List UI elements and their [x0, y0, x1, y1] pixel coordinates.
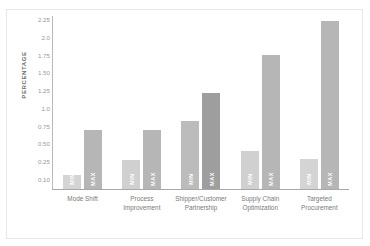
- y-axis-tick: 0.50: [16, 141, 50, 147]
- category-label-line1: Process: [112, 195, 171, 204]
- category-label-line1: Mode Shift: [53, 195, 112, 204]
- x-axis-category-labels: Mode ShiftProcessImprovementShipper/Cust…: [53, 195, 349, 212]
- bar-min[interactable]: MIN: [300, 159, 318, 189]
- cropped-title-strip: [0, 0, 370, 9]
- bar-groups: MINMAXMINMAXMINMAXMINMAXMINMAX: [53, 18, 349, 189]
- bar-max[interactable]: MAX: [202, 93, 220, 189]
- bar-max[interactable]: MAX: [84, 130, 102, 189]
- bar-min[interactable]: MIN: [181, 121, 199, 189]
- bar-series-label: MIN: [187, 173, 193, 184]
- bar-series-label: MIN: [69, 173, 75, 184]
- y-axis-tick: 2.0: [16, 35, 50, 41]
- bar-max[interactable]: MAX: [143, 130, 161, 189]
- bar-min[interactable]: MIN: [122, 160, 140, 189]
- category-label-line2: Improvement: [112, 204, 171, 213]
- y-axis-tick: 1.0: [16, 106, 50, 112]
- bar-max[interactable]: MAX: [262, 55, 280, 189]
- y-axis-tick: 1.25: [16, 88, 50, 94]
- bar-group: MINMAX: [173, 18, 229, 189]
- y-axis-tick: 0.10: [16, 177, 50, 183]
- category-label-line1: Shipper/Customer: [171, 195, 230, 204]
- category-label-line1: Targeted: [290, 195, 349, 204]
- bar-group: MINMAX: [114, 18, 170, 189]
- category-label-line2: Procurement: [290, 204, 349, 213]
- bar-series-label: MIN: [306, 173, 312, 184]
- x-axis-category-label: ProcessImprovement: [112, 195, 171, 212]
- bar-min[interactable]: MIN: [241, 151, 259, 189]
- category-label-line2: Partnership: [171, 204, 230, 213]
- bar-series-label: MAX: [327, 172, 333, 185]
- x-axis-line: [52, 189, 349, 190]
- chart-figure: PERCENTAGE 2.252.01.751.501.251.00.750.5…: [0, 0, 370, 246]
- bar-group: MINMAX: [232, 18, 288, 189]
- bar-series-label: MAX: [208, 172, 214, 185]
- y-axis-tick: 0.75: [16, 124, 50, 130]
- x-axis-category-label: Supply ChainOptimization: [231, 195, 290, 212]
- bar-series-label: MIN: [247, 173, 253, 184]
- x-axis-category-label: Mode Shift: [53, 195, 112, 212]
- bar-group: MINMAX: [291, 18, 347, 189]
- y-axis-tick: 0.25: [16, 159, 50, 165]
- bar-series-label: MAX: [90, 172, 96, 185]
- bar-series-label: MAX: [149, 172, 155, 185]
- y-axis-tick: 1.75: [16, 53, 50, 59]
- category-label-line2: Optimization: [231, 204, 290, 213]
- x-axis-category-label: Shipper/CustomerPartnership: [171, 195, 230, 212]
- bar-series-label: MAX: [268, 172, 274, 185]
- x-axis-category-label: TargetedProcurement: [290, 195, 349, 212]
- y-axis-tick-labels: 2.252.01.751.501.251.00.750.500.250.10: [10, 18, 50, 188]
- y-axis-tick: 1.50: [16, 70, 50, 76]
- bar-min[interactable]: MIN: [63, 175, 81, 189]
- bar-max[interactable]: MAX: [321, 21, 339, 189]
- category-label-line1: Supply Chain: [231, 195, 290, 204]
- bar-series-label: MIN: [128, 173, 134, 184]
- y-axis-tick: 2.25: [16, 17, 50, 23]
- bar-group: MINMAX: [55, 18, 111, 189]
